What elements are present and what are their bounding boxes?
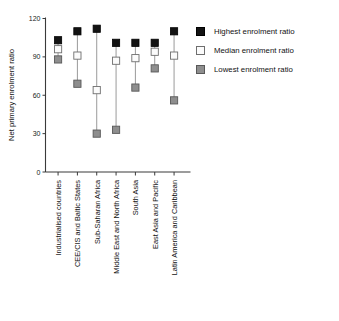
filled-square-swatch-icon [196,27,205,36]
legend-label-lowest: Lowest enrolment ratio [214,66,293,74]
data-point-median [170,52,177,59]
y-tick-label: 30 [33,130,41,137]
data-point-lowest [74,80,81,87]
data-point-median [54,46,61,53]
data-point-median [74,52,81,59]
y-tick-label: 0 [37,169,41,176]
data-point-highest [54,37,61,44]
open-square-swatch-icon [196,46,205,55]
y-tick-label: 120 [29,15,41,22]
data-point-lowest [132,84,139,91]
chart-legend: Highest enrolment ratio Median enrolment… [196,22,334,79]
x-axis-category-label: East Asia and Pacific [151,180,160,249]
x-axis-category-labels: Industrialised countriesCEE/CIS and Balt… [54,179,179,275]
x-axis-category-label: South Asia [131,179,140,215]
data-series-layer [54,25,177,137]
data-point-highest [112,39,119,46]
grey-square-swatch-icon [196,65,205,74]
data-point-lowest [112,126,119,133]
legend-item-median: Median enrolment ratio [196,41,334,60]
legend-item-lowest: Lowest enrolment ratio [196,60,334,79]
data-point-lowest [54,56,61,63]
data-point-lowest [151,65,158,72]
y-tick-label: 60 [33,92,41,99]
data-point-highest [151,39,158,46]
x-axis-category-label: Latin America and Caribbean [170,180,179,275]
data-point-lowest [93,130,100,137]
data-point-highest [93,25,100,32]
x-axis-category-label: Middle East and North Africa [112,179,121,274]
data-point-highest [170,28,177,35]
data-point-median [132,55,139,62]
legend-item-highest: Highest enrolment ratio [196,22,334,41]
y-tick-label: 90 [33,53,41,60]
data-point-median [93,87,100,94]
legend-label-highest: Highest enrolment ratio [214,28,295,36]
data-point-highest [132,39,139,46]
x-axis-category-label: CEE/CIS and Baltic States [73,180,82,267]
data-point-median [112,57,119,64]
y-axis-title: Net primary enrolment ratio [7,49,16,141]
x-axis-category-label: Industrialised countries [54,180,63,256]
data-point-lowest [170,97,177,104]
legend-label-median: Median enrolment ratio [214,47,294,55]
enrolment-ratio-chart: 0306090120 Industrialised countriesCEE/C… [0,0,339,321]
x-axis-category-label: Sub-Saharan Africa [93,179,102,244]
data-point-highest [74,28,81,35]
x-axis [46,172,191,176]
y-axis: 0306090120 [29,15,46,176]
data-point-median [151,48,158,55]
